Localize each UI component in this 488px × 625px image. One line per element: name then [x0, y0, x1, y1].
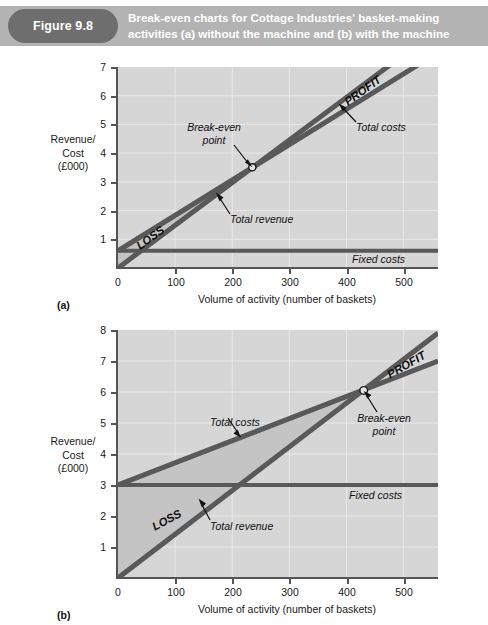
chart-b-y-axis-title-line-3: (£000) — [38, 462, 108, 476]
chart-b-ylabel-4: 4 — [88, 448, 106, 460]
chart-b-ytick-1 — [111, 547, 116, 549]
chart-b-ytick-6 — [111, 392, 116, 394]
chart-b-xtick-100 — [175, 579, 177, 584]
chart-b-total-costs-label: Total costs — [210, 416, 260, 429]
chart-b-container: Revenue/ Cost (£000) — [0, 0, 488, 625]
chart-b-y-axis-title-line-1: Revenue/ — [38, 435, 108, 449]
chart-b-break-even-arrow — [367, 396, 377, 412]
chart-b-total-revenue-label: Total revenue — [210, 520, 273, 533]
chart-b-ytick-8 — [111, 330, 116, 332]
chart-b-y-axis — [116, 330, 118, 579]
chart-b-xtick-200 — [232, 579, 234, 584]
chart-b-break-even-label-line-1: Break-even — [334, 412, 434, 425]
chart-b-ylabel-8: 8 — [88, 324, 106, 336]
chart-b-fixed-costs-label: Fixed costs — [349, 489, 402, 502]
chart-b-xlabel-0: 0 — [108, 586, 128, 598]
chart-b-ylabel-6: 6 — [88, 386, 106, 398]
chart-b-xtick-500 — [404, 579, 406, 584]
chart-b-xlabel-100: 100 — [161, 586, 191, 598]
chart-b-xtick-300 — [289, 579, 291, 584]
chart-b-plot-area: Break-even point Total costs Total reven… — [118, 330, 438, 578]
chart-b-ytick-2 — [111, 516, 116, 518]
chart-b-ytick-4 — [111, 454, 116, 456]
chart-b-xlabel-300: 300 — [275, 586, 305, 598]
chart-b-ylabel-2: 2 — [88, 510, 106, 522]
chart-b-xtick-400 — [347, 579, 349, 584]
chart-b-ylabel-1: 1 — [88, 541, 106, 553]
chart-b-xlabel-200: 200 — [218, 586, 248, 598]
chart-b-ytick-3 — [111, 485, 116, 487]
chart-b-xlabel-400: 400 — [332, 586, 362, 598]
chart-b-x-axis-title: Volume of activity (number of baskets) — [198, 603, 376, 615]
chart-b-x-axis — [116, 577, 438, 579]
chart-b-ylabel-7: 7 — [88, 355, 106, 367]
chart-b-ytick-7 — [111, 361, 116, 363]
chart-b-break-even-label-line-2: point — [334, 425, 434, 438]
chart-b-ylabel-3: 3 — [88, 479, 106, 491]
chart-b-xlabel-500: 500 — [389, 586, 419, 598]
chart-b-ylabel-5: 5 — [88, 417, 106, 429]
chart-b-panel-letter: (b) — [57, 609, 70, 621]
chart-b-break-even-label: Break-even point — [334, 412, 434, 437]
chart-b-ytick-5 — [111, 423, 116, 425]
